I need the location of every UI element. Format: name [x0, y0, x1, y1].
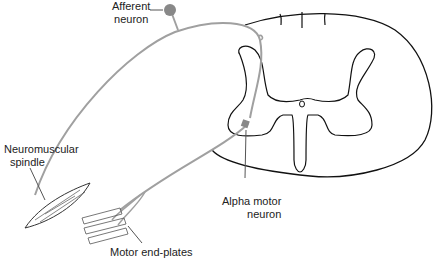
central-canal: [300, 101, 305, 107]
motor-end-plates: [82, 208, 128, 244]
label-line: neuron: [222, 208, 281, 221]
label-line: Alpha motor: [222, 195, 281, 208]
afferent-cell-body: [164, 4, 176, 16]
label-line: spindle: [4, 156, 79, 169]
gray-matter: [228, 46, 375, 172]
spindle-label: Neuromuscular spindle: [4, 143, 79, 169]
label-line: Afferent: [112, 0, 150, 13]
afferent-fiber: [35, 23, 261, 195]
reflex-arc-diagram: Afferent neuron Neuromuscular spindle Al…: [0, 0, 437, 266]
alpha-motor-cell: [241, 119, 250, 128]
label-line: neuron: [112, 13, 150, 26]
endplates-pointer: [128, 226, 142, 243]
alpha-pointer: [245, 130, 246, 178]
afferent-cell-stalk: [172, 14, 178, 30]
diagram-drawing: [0, 0, 437, 266]
neuromuscular-spindle: [25, 183, 90, 228]
motor-end-plates-label: Motor end-plates: [110, 246, 193, 259]
alpha-motor-neuron-label: Alpha motor neuron: [222, 195, 281, 221]
posterior-sulcus: [280, 12, 325, 28]
label-line: Neuromuscular: [4, 143, 79, 156]
afferent-neuron-label: Afferent neuron: [112, 0, 150, 26]
